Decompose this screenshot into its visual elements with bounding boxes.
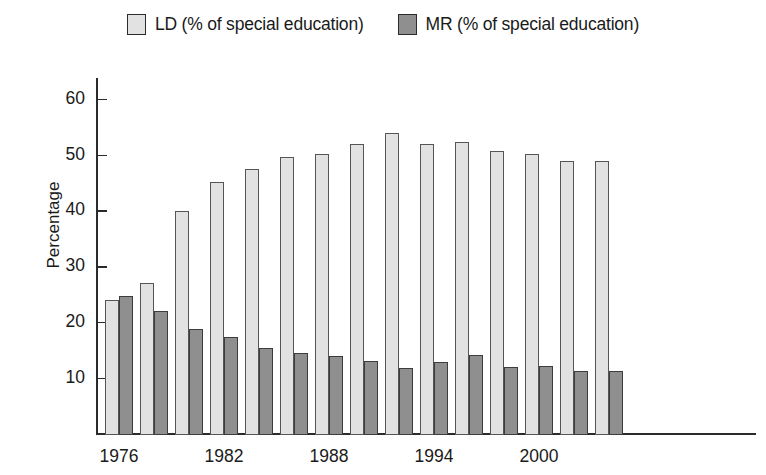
bar-mr [329,356,343,435]
bar-group [490,78,518,435]
bar-mr [189,329,203,435]
bar-group [175,78,203,435]
bar-group [350,78,378,435]
chart-legend: LD (% of special education) MR (% of spe… [0,14,766,35]
bar-group [595,78,623,435]
bar-mr [154,311,168,435]
bar-mr [224,337,238,435]
bar-ld [210,182,224,435]
mr-swatch-icon [398,14,417,35]
bar-ld [490,151,504,435]
y-tick-label-30: 30 [66,254,85,276]
legend-label-ld: LD (% of special education) [155,14,364,35]
y-tick-label-50: 50 [66,143,85,165]
bar-group [210,78,238,435]
x-tick-label-1976: 1976 [100,446,139,467]
bar-mr [259,348,273,435]
y-axis-title: Percentage [44,125,64,325]
legend-label-mr: MR (% of special education) [426,14,639,35]
x-tick-label-2000: 2000 [520,446,559,467]
ld-swatch-icon [127,14,146,35]
bar-mr [399,368,413,435]
bar-mr [469,355,483,435]
legend-entry-mr: MR (% of special education) [398,14,639,35]
bar-ld [315,154,329,435]
bar-ld [595,161,609,435]
bar-chart-figure: LD (% of special education) MR (% of spe… [0,0,766,475]
y-tick-label-20: 20 [66,310,85,332]
plot-area: 102030405060 19761982198819942000 [96,78,756,435]
bar-ld [175,211,189,435]
bar-ld [525,154,539,435]
bar-group [140,78,168,435]
bar-ld [455,142,469,435]
bar-group [105,78,133,435]
y-tick-label-40: 40 [66,198,85,220]
x-tick-label-1994: 1994 [415,446,454,467]
bar-mr [609,371,623,435]
bar-group [525,78,553,435]
x-tick-label-1982: 1982 [205,446,244,467]
legend-entry-ld: LD (% of special education) [127,14,364,35]
bar-group [455,78,483,435]
bar-mr [119,296,133,435]
bar-group [280,78,308,435]
bar-mr [434,362,448,435]
bar-group [420,78,448,435]
x-tick-label-1988: 1988 [310,446,349,467]
bar-group [560,78,588,435]
bar-ld [280,157,294,435]
bar-mr [574,371,588,435]
bar-group [385,78,413,435]
bar-ld [105,300,119,435]
y-tick-label-10: 10 [66,366,85,388]
bar-group [315,78,343,435]
bar-group [245,78,273,435]
bar-mr [504,367,518,435]
bar-ld [140,283,154,435]
bar-ld [245,169,259,435]
bar-ld [560,161,574,435]
bar-mr [294,353,308,435]
bar-ld [350,144,364,435]
y-tick-label-60: 60 [66,87,85,109]
bar-mr [539,366,553,435]
bar-group-container [96,78,756,435]
bar-ld [385,133,399,435]
bar-ld [420,144,434,435]
bar-mr [364,361,378,435]
